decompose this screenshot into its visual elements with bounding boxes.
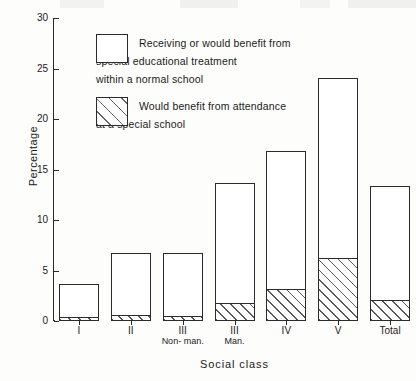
bar-segment-normal-school bbox=[266, 151, 306, 288]
bar-5 bbox=[266, 151, 306, 321]
bar-segment-normal-school bbox=[59, 284, 99, 318]
bar-4 bbox=[215, 183, 255, 321]
y-axis-tick bbox=[54, 321, 59, 322]
bar-segment-normal-school bbox=[318, 78, 358, 259]
bar-6 bbox=[318, 78, 358, 321]
legend-swatch-hatched-box bbox=[96, 97, 128, 126]
bar-segment-normal-school bbox=[111, 253, 151, 315]
bar-segment-special-school bbox=[370, 300, 410, 321]
legend-swatch-white-box bbox=[96, 34, 128, 63]
bar-chart-figure: 051015202530 Percentage IIIIIINon- man.I… bbox=[0, 0, 416, 381]
x-axis-category-7: Total bbox=[353, 325, 416, 336]
bar-segment-normal-school bbox=[163, 253, 203, 316]
bar-segment-special-school bbox=[215, 303, 255, 321]
legend-item-special-school: Would benefit from attendance at a speci… bbox=[96, 96, 291, 132]
bar-3 bbox=[163, 253, 203, 321]
bar-segment-normal-school bbox=[215, 183, 255, 303]
x-axis-title: Social class bbox=[53, 358, 416, 370]
bar-segment-normal-school bbox=[370, 186, 410, 300]
bar-7 bbox=[370, 186, 410, 321]
y-axis-tick-label: 5 bbox=[24, 266, 48, 276]
bar-segment-special-school bbox=[266, 289, 306, 321]
y-axis-title: Percentage bbox=[27, 101, 39, 211]
x-axis-category-sublabel: Man. bbox=[198, 336, 272, 346]
y-axis-tick-label: 25 bbox=[24, 64, 48, 74]
bar-segment-special-school bbox=[318, 258, 358, 321]
bar-2 bbox=[111, 253, 151, 321]
legend-item-normal-school: Receiving or would benefit from special … bbox=[96, 33, 291, 87]
y-axis-tick-label: 30 bbox=[24, 13, 48, 23]
y-axis-tick-label: 10 bbox=[24, 215, 48, 225]
scan-artifact bbox=[0, 0, 416, 8]
bar-1 bbox=[59, 284, 99, 321]
chart-legend: Receiving or would benefit from special … bbox=[96, 33, 291, 141]
